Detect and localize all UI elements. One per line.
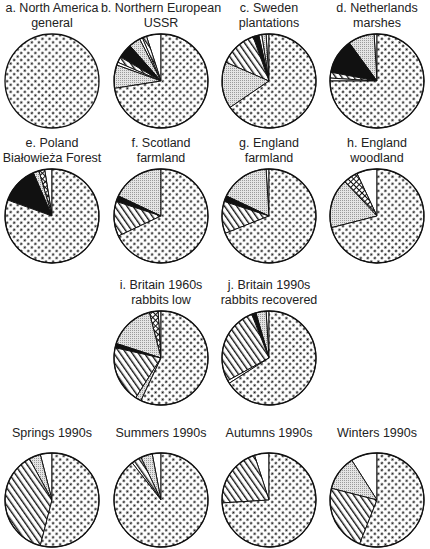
pie-title-line2: farmland (137, 151, 186, 165)
pie-title-line2: USSR (144, 16, 179, 30)
pie-title-line2: general (31, 16, 73, 30)
pie-title-line1: b. Northern European (101, 1, 221, 15)
pie-title-line1: a. North America (5, 1, 98, 15)
pie-slice-dots (5, 34, 99, 128)
pie-title-line1: f. Scotland (131, 136, 190, 150)
pie-d: d. Netherlandsmarshes (330, 1, 424, 128)
pie-title-line1: Springs 1990s (12, 426, 92, 440)
pie-a: a. North Americageneral (5, 1, 99, 128)
pie-title-line1: g. England (239, 136, 299, 150)
pie-title-line2: woodland (349, 151, 404, 165)
pie-title-line1: i. Britain 1960s (120, 278, 203, 292)
pie-title-line1: Autumns 1990s (226, 426, 313, 440)
pie-i: i. Britain 1960srabbits low (114, 278, 208, 405)
pie-title-line2: plantations (239, 16, 299, 30)
pie-grid: a. North Americageneralb. Northern Europ… (3, 1, 424, 547)
pie-title-line1: Summers 1990s (115, 426, 206, 440)
pie-title-line1: e. Poland (26, 136, 79, 150)
pie-title-line2: rabbits low (131, 293, 192, 307)
pie-title-line2: farmland (245, 151, 294, 165)
pie-title-line1: c. Sweden (240, 1, 298, 15)
pie-summer: Summers 1990s (114, 426, 208, 547)
pie-title-line2: marshes (353, 16, 401, 30)
pie-winter: Winters 1990s (330, 426, 424, 547)
pie-title-line1: Winters 1990s (337, 426, 417, 440)
pie-spring: Springs 1990s (5, 426, 99, 547)
pie-autumn: Autumns 1990s (222, 426, 316, 547)
pie-title-line1: d. Netherlands (336, 1, 417, 15)
pie-chart-figure: a. North Americageneralb. Northern Europ… (0, 0, 430, 549)
pie-b: b. Northern EuropeanUSSR (101, 1, 221, 128)
pie-h: h. Englandwoodland (330, 136, 424, 263)
pie-e: e. PolandBiałowieża Forest (3, 136, 102, 263)
pie-title-line2: rabbits recovered (221, 293, 318, 307)
pie-title-line2: Białowieża Forest (3, 151, 102, 165)
pie-g: g. Englandfarmland (222, 136, 316, 263)
pie-c: c. Swedenplantations (222, 1, 316, 128)
pie-title-line1: h. England (347, 136, 407, 150)
pie-title-line1: j. Britain 1990s (227, 278, 311, 292)
pie-f: f. Scotlandfarmland (114, 136, 208, 263)
pie-j: j. Britain 1990srabbits recovered (221, 278, 318, 405)
